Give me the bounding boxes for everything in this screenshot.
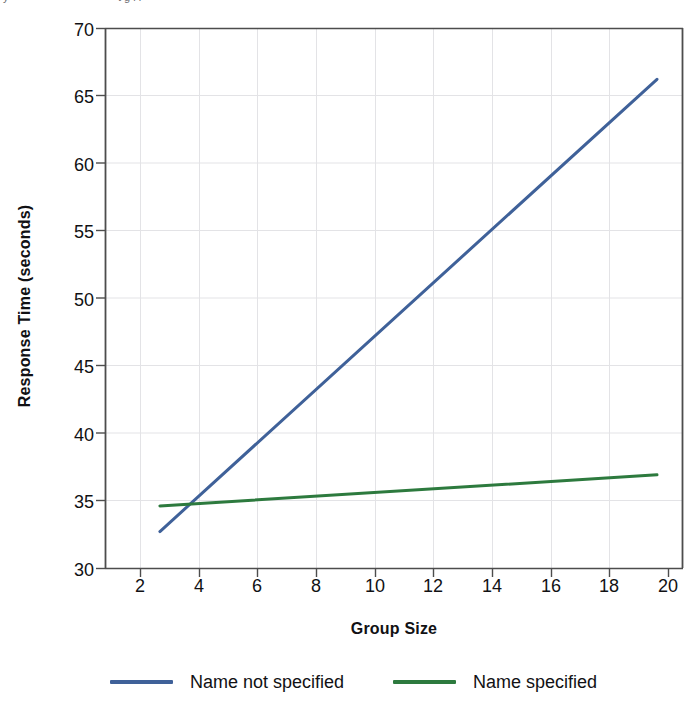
chart-legend: Name not specified Name specified — [0, 668, 688, 702]
legend-label: Name not specified — [190, 672, 344, 693]
legend-item-name-not-specified: Name not specified — [110, 668, 344, 696]
legend-swatch-icon — [110, 680, 173, 684]
y-axis-ticks — [96, 29, 105, 569]
gridlines — [105, 28, 683, 568]
series-line-name-not-specified — [160, 79, 657, 531]
series-lines — [160, 79, 657, 531]
plot-area — [0, 0, 688, 712]
chart-figure: y t g l i Response Time (seconds) Group … — [0, 0, 688, 712]
x-axis-ticks — [141, 568, 669, 577]
legend-item-name-specified: Name specified — [393, 668, 597, 696]
legend-swatch-icon — [393, 680, 456, 684]
series-line-name-specified — [160, 475, 657, 506]
legend-label: Name specified — [473, 672, 597, 693]
